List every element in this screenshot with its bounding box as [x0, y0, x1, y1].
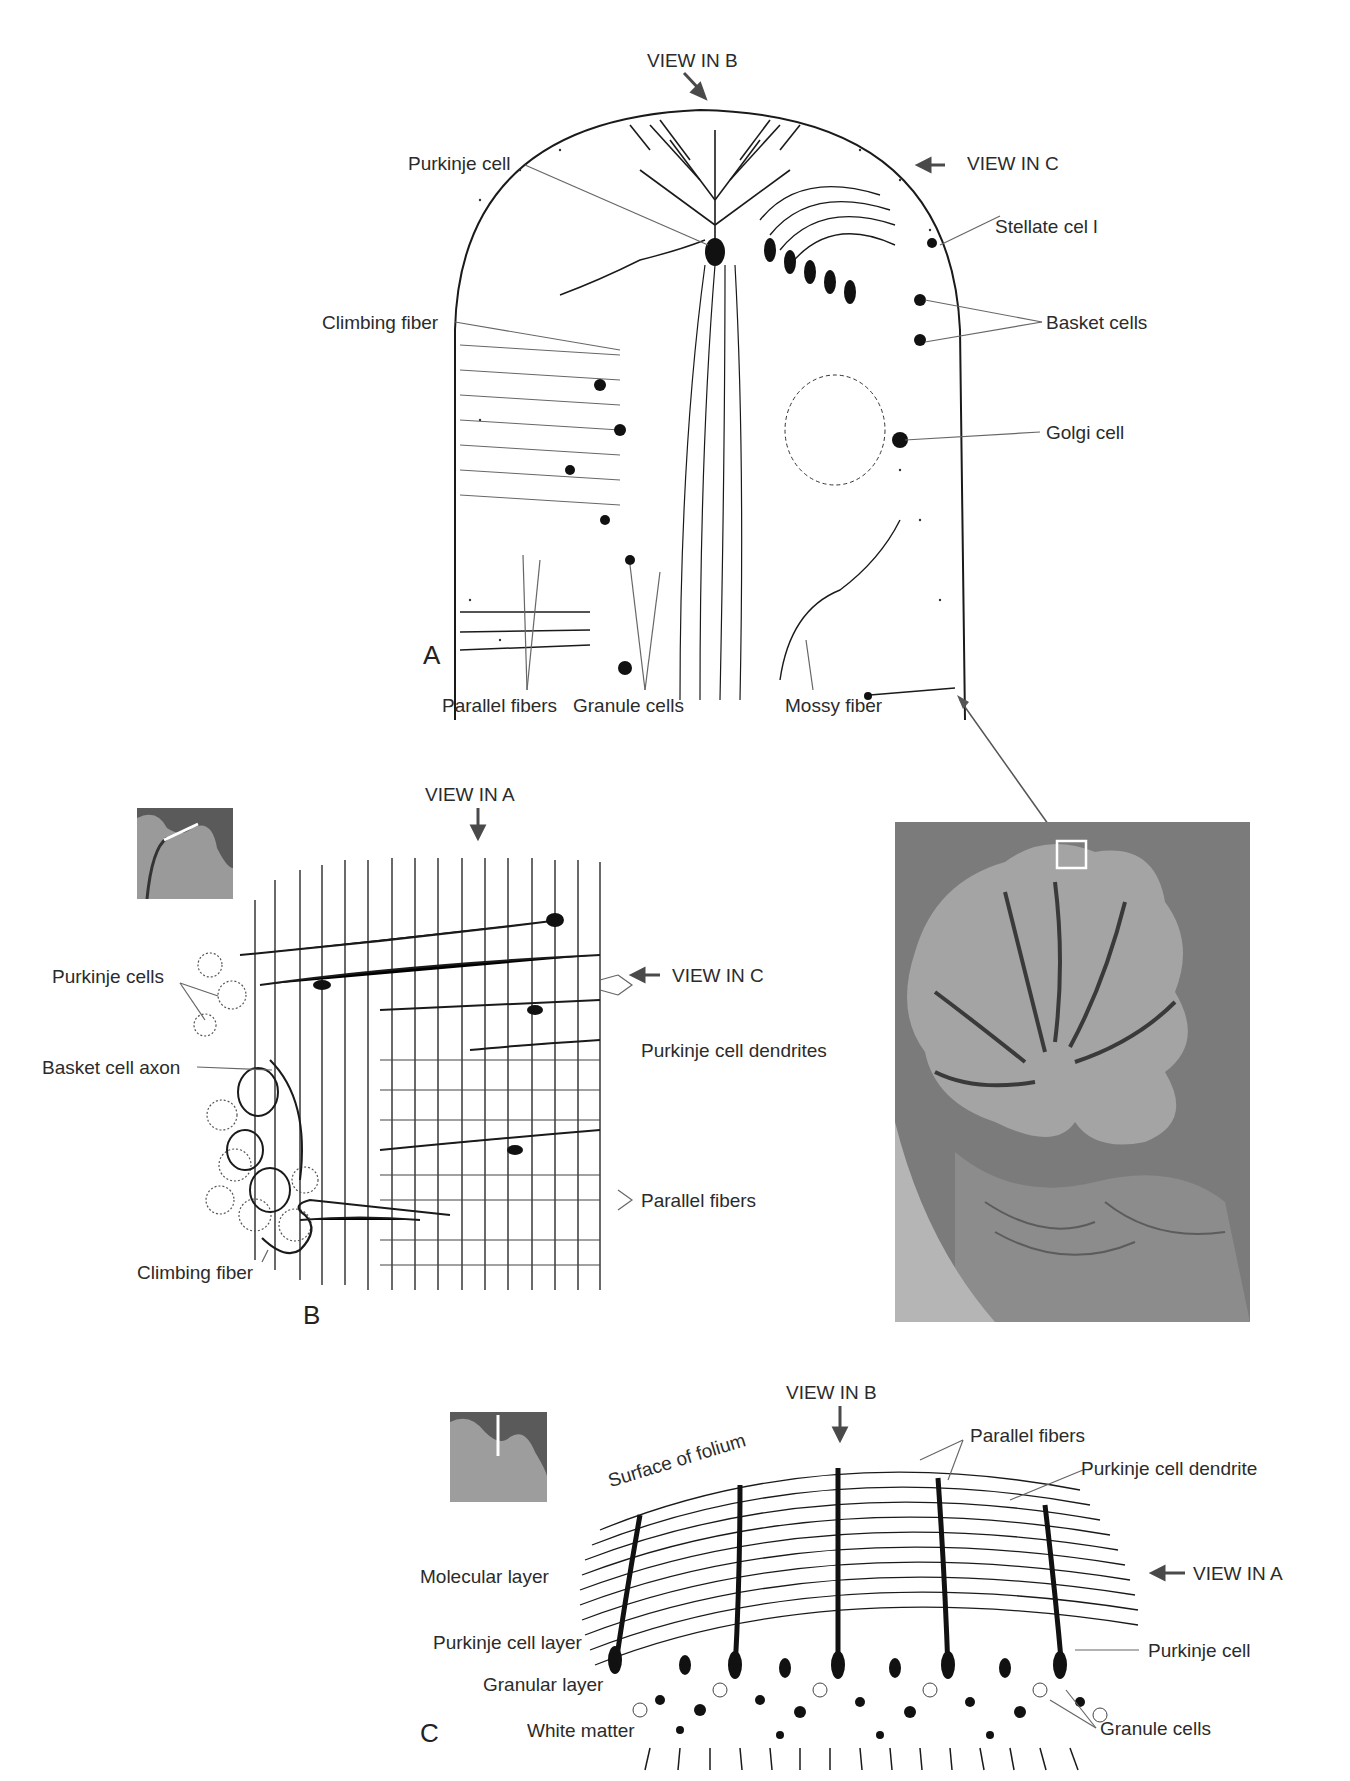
label-purkinje-cell-c: Purkinje cell	[1148, 1640, 1250, 1662]
label-parallel-fibers-c: Parallel fibers	[970, 1425, 1085, 1447]
view-in-a-label-c: VIEW IN A	[1193, 1563, 1283, 1585]
label-purkinje-cell-layer: Purkinje cell layer	[433, 1632, 582, 1654]
label-purkinje-cell-dendrite: Purkinje cell dendrite	[1081, 1458, 1257, 1480]
panel-c-drawing	[0, 0, 1350, 1781]
label-white-matter: White matter	[527, 1720, 635, 1742]
label-molecular-layer: Molecular layer	[420, 1566, 549, 1588]
label-granule-cells-c: Granule cells	[1100, 1718, 1211, 1740]
label-granular-layer: Granular layer	[483, 1674, 603, 1696]
panel-letter-c: C	[420, 1718, 439, 1749]
view-in-b-label-c: VIEW IN B	[786, 1382, 877, 1404]
